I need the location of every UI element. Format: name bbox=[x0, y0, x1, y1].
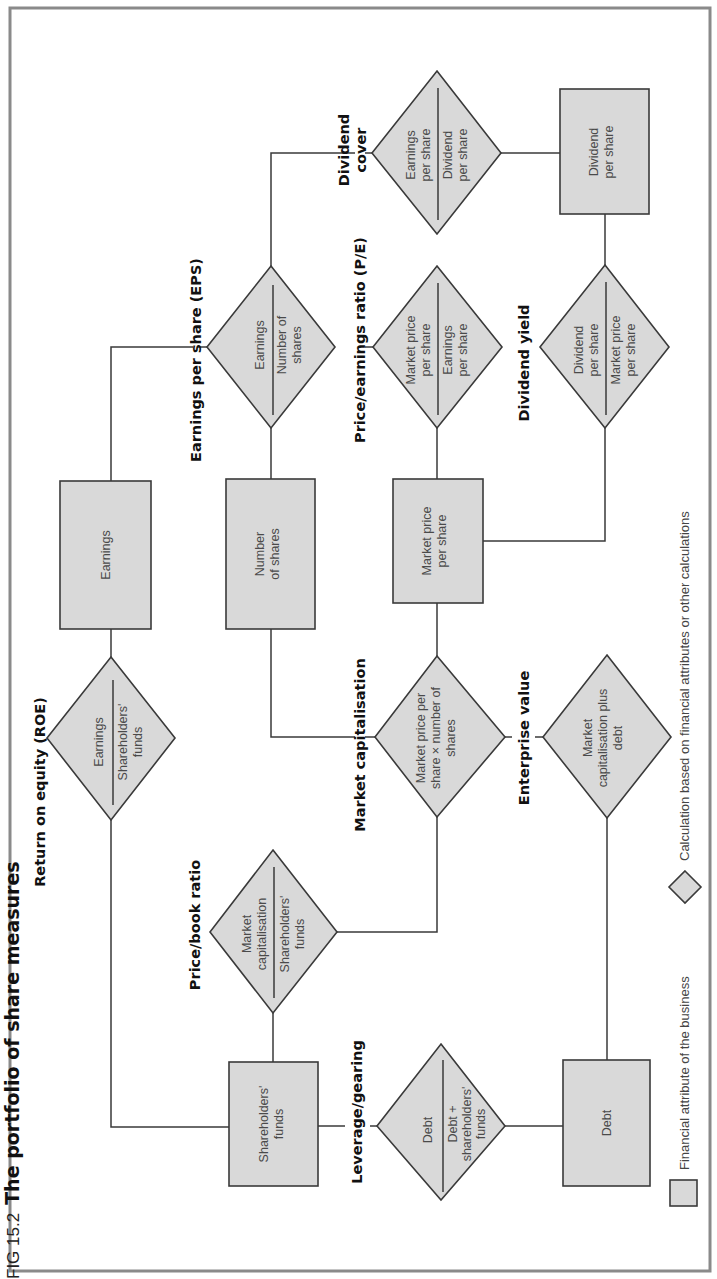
attribute-debt: Debt bbox=[563, 1060, 650, 1186]
legend: Financial attribute of the business Calc… bbox=[669, 511, 701, 1206]
label-roe: Return on equity (ROE) bbox=[32, 697, 48, 887]
measure-eps: Earnings Number ofshares Earnings per sh… bbox=[188, 258, 335, 462]
share-measures-diagram: FIG 15.2The portfolio of share measures bbox=[0, 0, 717, 1279]
measure-pe: Market priceper share Earningsper share … bbox=[352, 237, 502, 443]
svg-text:Debt: Debt bbox=[600, 1109, 614, 1136]
svg-text:Market priceper share: Market priceper share bbox=[420, 507, 449, 576]
measure-price-book: Marketcapitalisation Shareholders'funds … bbox=[187, 850, 337, 1013]
svg-text:Debt: Debt bbox=[421, 1116, 435, 1143]
measure-roe: Earnings Shareholders'funds Return on eq… bbox=[32, 657, 175, 887]
legend-box-icon bbox=[670, 1180, 697, 1206]
label-price-book: Price/book ratio bbox=[187, 860, 203, 990]
svg-text:Calculation based on financial: Calculation based on financial attribute… bbox=[677, 511, 692, 861]
svg-text:Dividendper share: Dividendper share bbox=[572, 324, 601, 377]
figure-title: FIG 15.2The portfolio of share measures bbox=[1, 861, 23, 1279]
label-pe: Price/earnings ratio (P/E) bbox=[352, 237, 368, 443]
attribute-shareholders-funds: Shareholders'funds bbox=[229, 1062, 318, 1186]
attribute-number-of-shares: Numberof shares bbox=[226, 479, 315, 629]
svg-text:Dividendper share: Dividendper share bbox=[587, 126, 616, 179]
legend-attribute: Financial attribute of the business bbox=[670, 976, 697, 1206]
label-market-cap: Market capitalisation bbox=[352, 658, 368, 831]
label-leverage: Leverage/gearing bbox=[349, 1040, 365, 1184]
svg-text:Earnings: Earnings bbox=[92, 717, 106, 766]
measure-market-cap: Market price pershare × number ofshares … bbox=[352, 656, 505, 832]
label-eps: Earnings per share (EPS) bbox=[188, 258, 204, 462]
svg-text:Market priceper share: Market priceper share bbox=[404, 316, 433, 385]
attribute-dividend-per-share: Dividendper share bbox=[560, 89, 649, 214]
svg-text:Dividendper share: Dividendper share bbox=[441, 129, 470, 182]
legend-diamond-icon bbox=[669, 871, 701, 903]
svg-text:Numberof shares: Numberof shares bbox=[253, 528, 282, 579]
svg-text:Earnings: Earnings bbox=[253, 320, 267, 369]
measure-dividend-cover: Earningsper share Dividendper share Divi… bbox=[336, 71, 501, 234]
svg-text:Earningsper share: Earningsper share bbox=[404, 129, 433, 182]
attribute-earnings: Earnings bbox=[60, 481, 151, 629]
svg-text:Earnings: Earnings bbox=[99, 530, 113, 579]
measure-leverage: Debt Debt +shareholders'funds Leverage/g… bbox=[349, 1040, 505, 1200]
attribute-market-price-per-share: Market priceper share bbox=[393, 479, 483, 603]
label-dividend-yield: Dividend yield bbox=[516, 305, 532, 422]
label-enterprise-value: Enterprise value bbox=[516, 671, 532, 806]
svg-text:Market priceper share: Market priceper share bbox=[609, 316, 638, 385]
legend-calculation: Calculation based on financial attribute… bbox=[669, 511, 701, 903]
measure-dividend-yield: Dividendper share Market priceper share … bbox=[516, 265, 669, 428]
svg-text:Earningsper share: Earningsper share bbox=[441, 324, 470, 377]
svg-text:Financial attribute of the bus: Financial attribute of the business bbox=[677, 976, 692, 1170]
label-dividend-cover: Dividendcover bbox=[336, 114, 369, 186]
